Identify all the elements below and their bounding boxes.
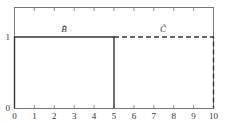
x-tick-label: 0 — [12, 111, 17, 121]
x-tick-label: 1 — [32, 111, 37, 121]
x-tick-label: 9 — [191, 111, 196, 121]
x-tick-label: 3 — [72, 111, 77, 121]
chart: 0 1 2 3 4 5 6 7 8 9 10 0 1 B̃ C̃ — [0, 0, 225, 123]
y-axis-labels: 0 1 — [6, 32, 11, 113]
x-tick-label: 10 — [209, 111, 219, 121]
series-b-line — [15, 37, 115, 108]
x-tick-label: 6 — [132, 111, 137, 121]
x-tick-label: 8 — [171, 111, 176, 121]
x-tick-label: 7 — [152, 111, 157, 121]
x-tick-label: 5 — [112, 111, 117, 121]
series-c-label: C̃ — [160, 24, 167, 34]
x-tick-label: 2 — [52, 111, 57, 121]
x-tick-label: 4 — [92, 111, 97, 121]
x-axis-labels: 0 1 2 3 4 5 6 7 8 9 10 — [12, 111, 218, 121]
series-c-line — [114, 37, 214, 108]
y-tick-label: 0 — [6, 103, 11, 113]
y-tick-label: 1 — [6, 32, 11, 42]
series-b-label: B̃ — [61, 24, 67, 34]
